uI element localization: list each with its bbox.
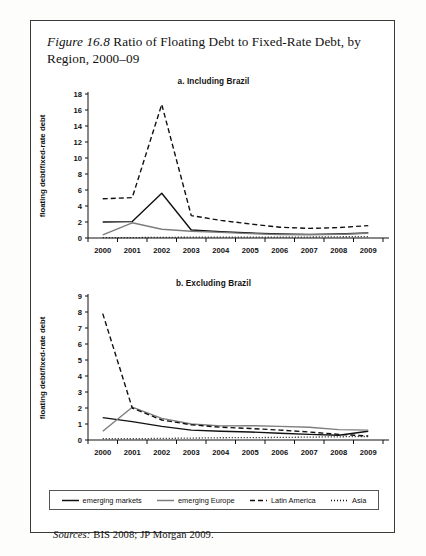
sources-label: Sources: <box>53 529 90 540</box>
y-tick-label: 2 <box>78 218 82 227</box>
x-tick-label: 2008 <box>330 448 347 457</box>
y-tick-label: 7 <box>78 324 82 333</box>
y-tick-label: 8 <box>78 308 82 317</box>
y-tick-label: 6 <box>78 340 82 349</box>
x-tick-label: 2009 <box>360 448 377 457</box>
legend-label: emerging markets <box>83 496 142 505</box>
y-tick-label: 2 <box>78 404 82 413</box>
sources-text: BIS 2008; JP Morgan 2009. <box>93 529 214 540</box>
y-tick-label: 6 <box>78 186 82 195</box>
y-tick-label: 0 <box>78 436 82 445</box>
y-tick-label: 8 <box>78 170 82 179</box>
legend-key-solid <box>157 497 174 504</box>
y-tick-label: 5 <box>78 356 83 365</box>
legend-key-dotted <box>331 497 348 504</box>
series-line <box>103 104 369 228</box>
chart-legend: emerging marketsemerging EuropeLatin Ame… <box>49 490 379 510</box>
y-axis-title: floating debt/fixed-rate debt <box>38 316 47 419</box>
chart-a-title: a. Including Brazil <box>31 77 396 86</box>
x-tick-label: 2006 <box>271 246 288 255</box>
x-tick-label: 2003 <box>183 448 200 457</box>
sources-line: Sources: BIS 2008; JP Morgan 2009. <box>53 529 214 540</box>
x-tick-label: 2008 <box>330 246 347 255</box>
series-line <box>103 314 369 436</box>
series-line <box>103 223 369 235</box>
x-tick-label: 2009 <box>360 246 377 255</box>
y-tick-label: 16 <box>74 106 82 115</box>
y-tick-label: 12 <box>74 138 82 147</box>
legend-key-solid <box>62 497 79 504</box>
legend-item: emerging markets <box>62 496 142 505</box>
legend-label: emerging Europe <box>178 496 235 505</box>
figure-number: Figure 16.8 <box>47 34 110 49</box>
legend-label: Asia <box>352 496 366 505</box>
series-line <box>103 237 369 238</box>
chart-b-plot: 0123456789200020012002200320042005200620… <box>31 288 396 474</box>
x-tick-label: 2004 <box>212 246 230 255</box>
series-line <box>103 436 369 438</box>
y-tick-label: 14 <box>74 122 83 131</box>
y-tick-label: 4 <box>78 202 83 211</box>
y-axis-title: floating debt/fixed-rate debt <box>38 114 47 217</box>
x-tick-label: 2004 <box>212 448 230 457</box>
legend-label: Latin America <box>271 496 316 505</box>
x-tick-label: 2007 <box>301 448 318 457</box>
x-tick-label: 2003 <box>183 246 200 255</box>
x-tick-label: 2007 <box>301 246 318 255</box>
y-tick-label: 3 <box>78 388 82 397</box>
y-tick-label: 1 <box>78 420 83 429</box>
y-tick-label: 4 <box>78 372 83 381</box>
figure-caption: Figure 16.8 Ratio of Floating Debt to Fi… <box>47 33 377 67</box>
y-tick-label: 9 <box>78 292 82 301</box>
legend-item: Latin America <box>250 496 316 505</box>
x-tick-label: 2000 <box>94 448 111 457</box>
chart-a-svg: 0246810121416182000200120022003200420052… <box>31 86 396 272</box>
x-tick-label: 2002 <box>153 448 170 457</box>
x-tick-label: 2002 <box>153 246 170 255</box>
x-tick-label: 2005 <box>242 448 260 457</box>
chart-a-plot: 0246810121416182000200120022003200420052… <box>31 86 396 272</box>
x-tick-label: 2001 <box>124 448 142 457</box>
x-tick-label: 2006 <box>271 448 288 457</box>
legend-item: emerging Europe <box>157 496 235 505</box>
x-tick-label: 2005 <box>242 246 260 255</box>
chart-b-title: b. Excluding Brazil <box>31 279 396 288</box>
x-tick-label: 2000 <box>94 246 111 255</box>
chart-panel-b: b. Excluding Brazil 01234567892000200120… <box>31 279 396 477</box>
legend-item: Asia <box>331 496 366 505</box>
figure-box: Figure 16.8 Ratio of Floating Debt to Fi… <box>30 20 395 533</box>
y-tick-label: 10 <box>74 154 82 163</box>
x-tick-label: 2001 <box>124 246 142 255</box>
chart-b-svg: 0123456789200020012002200320042005200620… <box>31 288 396 474</box>
chart-panel-a: a. Including Brazil 02468101214161820002… <box>31 77 396 277</box>
figure-page: Figure 16.8 Ratio of Floating Debt to Fi… <box>0 0 426 556</box>
y-tick-label: 18 <box>74 90 82 99</box>
legend-key-dashed <box>250 497 267 504</box>
y-tick-label: 0 <box>78 234 82 243</box>
